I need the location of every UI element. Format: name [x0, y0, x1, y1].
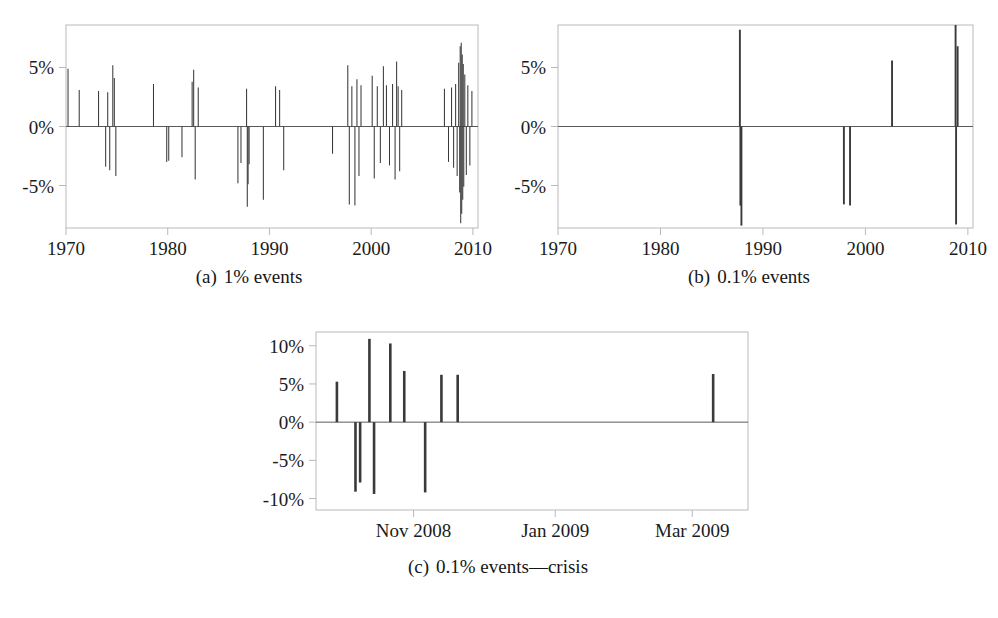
y-tick-label: 10% [269, 336, 304, 357]
panel-a-caption: (a)1% events [0, 266, 498, 288]
panel-a-plot: 19701980199020002010-5%0%5% [0, 0, 498, 262]
x-tick-label: 1970 [47, 238, 85, 259]
y-axis: -5%0%5% [514, 57, 558, 196]
spike-series [740, 25, 958, 226]
x-tick-label: 1980 [149, 238, 187, 259]
y-tick-label: 5% [521, 57, 547, 78]
y-tick-label: -5% [272, 450, 304, 471]
x-tick-label: 2010 [454, 238, 492, 259]
panel-a-caption-tag: (a) [196, 266, 217, 287]
panel-c-caption-text: 0.1% events—crisis [436, 556, 588, 577]
panel-c-caption-tag: (c) [408, 556, 429, 577]
x-axis: Nov 2008Jan 2009Mar 2009 [376, 510, 730, 541]
spike-series [68, 43, 472, 224]
panel-b: 19701980199020002010-5%0%5% [500, 0, 998, 262]
x-axis: 19701980199020002010 [539, 228, 987, 259]
x-tick-label: 2000 [846, 238, 884, 259]
y-tick-label: 5% [29, 57, 55, 78]
x-axis: 19701980199020002010 [47, 228, 492, 259]
x-tick-label: Jan 2009 [521, 520, 589, 541]
y-tick-label: 0% [521, 117, 547, 138]
x-tick-label: Nov 2008 [376, 520, 451, 541]
panel-b-caption-text: 0.1% events [717, 266, 810, 287]
panel-c: Nov 2008Jan 2009Mar 2009-10%-5%0%5%10% [228, 310, 768, 555]
spike-series [337, 339, 713, 494]
y-tick-label: -10% [263, 489, 304, 510]
x-tick-label: Mar 2009 [655, 520, 729, 541]
panel-a-caption-text: 1% events [224, 266, 303, 287]
y-tick-label: 0% [29, 117, 55, 138]
panel-a: 19701980199020002010-5%0%5% [0, 0, 498, 262]
panel-b-caption-tag: (b) [688, 266, 710, 287]
panel-c-plot: Nov 2008Jan 2009Mar 2009-10%-5%0%5%10% [228, 310, 768, 555]
y-tick-label: 0% [279, 412, 305, 433]
x-tick-label: 2000 [352, 238, 390, 259]
y-axis: -10%-5%0%5%10% [263, 336, 316, 510]
x-tick-label: 2010 [949, 238, 987, 259]
y-tick-label: -5% [22, 176, 54, 197]
panel-b-plot: 19701980199020002010-5%0%5% [500, 0, 998, 262]
y-tick-label: -5% [514, 176, 546, 197]
y-axis: -5%0%5% [22, 57, 66, 196]
plot-frame [316, 332, 748, 510]
x-tick-label: 1970 [539, 238, 577, 259]
panel-c-caption: (c)0.1% events—crisis [228, 556, 768, 578]
figure-three-panel-spike-plots: 19701980199020002010-5%0%5% (a)1% events… [0, 0, 998, 618]
y-tick-label: 5% [279, 374, 305, 395]
x-tick-label: 1990 [744, 238, 782, 259]
panel-b-caption: (b)0.1% events [500, 266, 998, 288]
x-tick-label: 1990 [250, 238, 288, 259]
x-tick-label: 1980 [641, 238, 679, 259]
